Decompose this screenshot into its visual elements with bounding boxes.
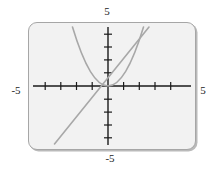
y-max-label: 5 (104, 6, 110, 17)
x-min-label: -5 (11, 85, 20, 96)
graphing-calculator-viewport (28, 22, 196, 150)
y-min-label: -5 (105, 153, 114, 164)
x-max-label: 5 (200, 85, 206, 96)
graph-screenshot: 5 -5 -5 5 (0, 0, 215, 170)
graph-plot-area (29, 23, 195, 149)
